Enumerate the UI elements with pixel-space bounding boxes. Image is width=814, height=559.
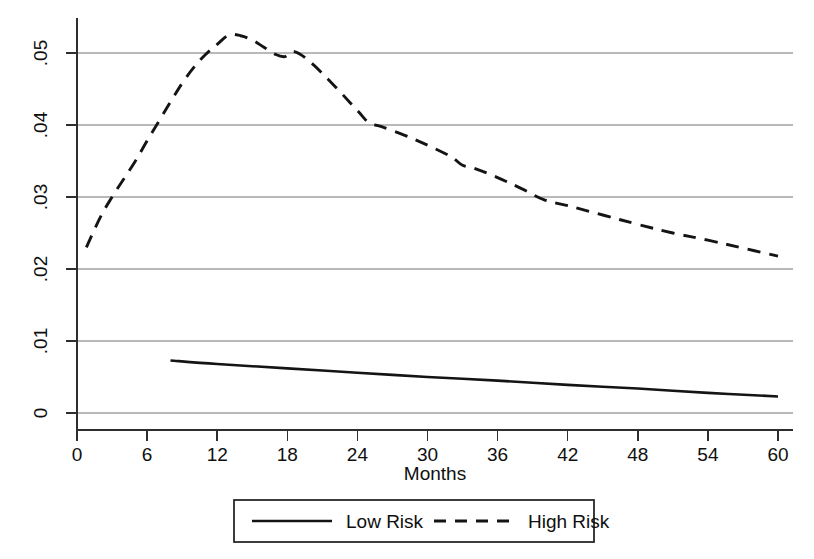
- x-tick-label-6: 36: [487, 444, 508, 465]
- x-tick-label-2: 12: [207, 444, 228, 465]
- chart-figure: 0.01.02.03.04.05 06121824303642485460 Mo…: [0, 0, 814, 559]
- y-tick-label-5: .05: [30, 40, 51, 66]
- y-tick-label-2: .02: [30, 256, 51, 282]
- x-tick-label-7: 42: [557, 444, 578, 465]
- x-axis-title: Months: [404, 463, 466, 484]
- y-tick-label-1: .01: [30, 328, 51, 354]
- legend-label-high-risk: High Risk: [528, 511, 610, 532]
- y-tick-label-4: .04: [30, 111, 51, 138]
- chart-legend: Low Risk High Risk: [234, 500, 610, 542]
- hazard-rate-line-chart: 0.01.02.03.04.05 06121824303642485460 Mo…: [0, 0, 814, 559]
- x-tick-label-5: 30: [417, 444, 438, 465]
- x-tick-label-4: 24: [347, 444, 369, 465]
- x-tick-label-9: 54: [697, 444, 719, 465]
- x-tick-label-1: 6: [142, 444, 153, 465]
- legend-label-low-risk: Low Risk: [346, 511, 424, 532]
- y-tick-label-0: 0: [30, 408, 51, 419]
- y-tick-label-3: .03: [30, 184, 51, 210]
- x-tick-label-10: 60: [767, 444, 788, 465]
- x-tick-label-8: 48: [627, 444, 648, 465]
- x-tick-label-0: 0: [72, 444, 83, 465]
- x-tick-label-3: 18: [277, 444, 298, 465]
